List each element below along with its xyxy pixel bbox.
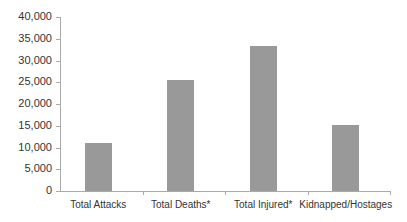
y-tick-label: 10,000 <box>2 141 52 153</box>
y-tick-mark <box>56 82 60 83</box>
x-tick-mark <box>390 191 391 195</box>
x-tick-label: Kidnapped/Hostages <box>291 199 401 210</box>
y-tick-label: 5,000 <box>2 162 52 174</box>
bar-kidnapped-hostages <box>332 125 359 191</box>
y-tick-mark <box>56 126 60 127</box>
bar-total-deaths <box>167 80 194 191</box>
y-tick-label: 15,000 <box>2 119 52 131</box>
x-tick-mark <box>225 191 226 195</box>
bar-total-attacks <box>85 143 112 191</box>
y-tick-mark <box>56 169 60 170</box>
bar-chart: 05,00010,00015,00020,00025,00030,00035,0… <box>0 0 407 222</box>
y-tick-label: 40,000 <box>2 10 52 22</box>
y-tick-mark <box>56 17 60 18</box>
y-tick-mark <box>56 104 60 105</box>
y-axis-line <box>60 17 61 192</box>
x-tick-mark <box>308 191 309 195</box>
x-tick-mark <box>143 191 144 195</box>
y-tick-label: 30,000 <box>2 54 52 66</box>
y-tick-mark <box>56 61 60 62</box>
bar-total-injured <box>250 46 277 191</box>
y-tick-mark <box>56 191 60 192</box>
y-tick-label: 0 <box>2 184 52 196</box>
y-tick-label: 25,000 <box>2 75 52 87</box>
y-tick-mark <box>56 39 60 40</box>
y-tick-mark <box>56 148 60 149</box>
y-tick-label: 35,000 <box>2 32 52 44</box>
y-tick-label: 20,000 <box>2 97 52 109</box>
